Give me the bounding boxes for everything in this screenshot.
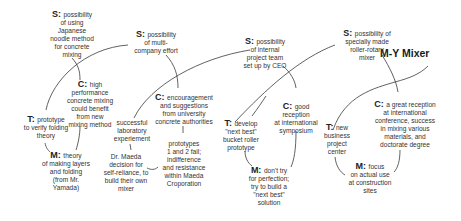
s3-t-to-m: [245, 151, 252, 166]
stage4-m-node: M: focus on actual use at construction s…: [347, 162, 393, 195]
stage2-t-node: successful laboratory experiement: [112, 119, 152, 143]
stage3-c-node: C: good reception at international sympo…: [268, 102, 324, 135]
c-key: C:: [78, 79, 90, 89]
s2-s-to-c: [166, 55, 178, 88]
stage4-s-node: S: possibility of specially made roller-…: [338, 29, 396, 62]
s2-t-to-m: [130, 144, 131, 150]
m-key: M:: [251, 165, 264, 175]
stage2-s-node: S: possibility of multi- company effort: [125, 30, 187, 55]
s-key: S:: [245, 36, 257, 46]
s-key: S:: [343, 28, 355, 38]
m-key: M:: [356, 161, 369, 171]
stage4-t-node: T: new business project center: [324, 123, 350, 156]
c-key: C:: [155, 92, 167, 102]
s-key: S:: [136, 29, 148, 39]
s1-s-to-c: [72, 58, 80, 80]
diagram-canvas: M-Y Mixer S: possibility of using Japane…: [0, 0, 461, 221]
s1-c-to-m: [76, 126, 80, 150]
s4-c-to-m: [394, 150, 400, 172]
stage2-x-node: prototypes 1 and 2 fail; indifference an…: [160, 140, 208, 188]
t-key: T:: [224, 118, 234, 128]
stage1-m-node: M: theory of making layers and folding (…: [38, 151, 94, 192]
m-key: M:: [50, 150, 63, 160]
stage3-m-node: M: don't try for perfection; try to buil…: [243, 166, 295, 207]
stage1-t-node: T: prototype to verify folding theory: [20, 115, 72, 140]
c-key: C:: [374, 99, 386, 109]
s-key: S:: [52, 9, 64, 19]
stage2-m-node: Dr. Maeda decision for self-reliance, to…: [100, 153, 152, 193]
c-key: C:: [283, 101, 295, 111]
stage3-t-node: T: develop "next best" bucket roller pro…: [216, 119, 266, 152]
stage4-c-node: C: a great reception at international co…: [372, 100, 438, 149]
stage2-c-node: C: encouragement and suggestions from un…: [148, 93, 220, 126]
stage1-s-node: S: possibility of using Japanese noodle …: [38, 10, 106, 59]
s4-t-to-m: [335, 157, 345, 175]
stage3-s-node: S: possibility of internal project team …: [236, 37, 294, 70]
t-key: T:: [27, 114, 37, 124]
t-key: T:: [326, 122, 336, 132]
s3-t-to-c: [252, 96, 266, 116]
s3-c-to-m: [291, 131, 296, 167]
